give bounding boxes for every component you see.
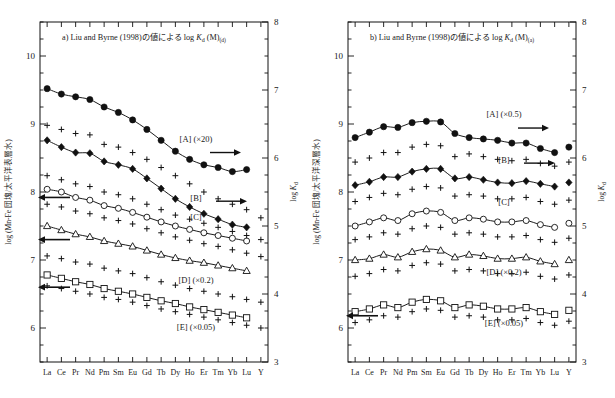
data-point-[A]-Gd <box>144 126 150 132</box>
data-point-[B]-Pr <box>72 149 78 156</box>
panel-b: 678910345678LaCePrNdPmSmEuGdTbDyHoErTmYb… <box>308 0 615 398</box>
data-point-plus-D-La <box>44 253 50 259</box>
series-label-[B]: [B] <box>498 155 510 165</box>
y-right-axis: 345678 <box>262 17 279 367</box>
data-point-plus-A-Tb <box>466 151 472 157</box>
data-point-[C]-Gd <box>452 218 458 224</box>
series-label-[E]: [E] (×0.05) <box>485 318 523 328</box>
data-point-[B]-Nd <box>395 173 401 180</box>
data-point-plus-D-Ce <box>366 271 372 277</box>
series-label-[C]: [C] <box>498 197 510 207</box>
data-point-plus-A-Yb <box>229 201 235 207</box>
data-point-plus-B-Pr <box>381 190 387 196</box>
x-tick-label-Er: Er <box>200 368 208 377</box>
data-point-plus-B-Eu <box>130 196 136 202</box>
data-point-[A]-Pr <box>381 124 387 130</box>
data-point-plus-B-La <box>352 199 358 205</box>
data-point-plus-A-Dy <box>172 173 178 179</box>
data-point-[A]-Gd <box>452 130 458 136</box>
data-point-plus-A-Nd <box>395 150 401 156</box>
data-point-plus-D-Sm <box>423 260 429 266</box>
y-right-tick-label: 3 <box>582 357 587 367</box>
data-point-[A]-Tb <box>466 135 472 141</box>
data-point-plus-E-Ho <box>187 312 193 318</box>
data-point-[A]-Y <box>566 144 572 150</box>
data-point-plus-C-Y <box>566 235 572 241</box>
data-point-plus-B-Y <box>258 237 264 243</box>
data-point-plus-B-Tb <box>466 192 472 198</box>
data-point-plus-C-Pr <box>73 208 79 214</box>
x-tick-label-Nd: Nd <box>393 368 403 377</box>
data-point-[B]-Tm <box>523 178 529 185</box>
data-point-[E]-Eu <box>130 291 136 297</box>
plot-frame <box>40 22 268 362</box>
data-point-[A]-Nd <box>395 124 401 130</box>
data-point-plus-A-Dy <box>480 154 486 160</box>
data-point-[C]-Ho <box>495 219 501 225</box>
data-point-plus-E-Pm <box>409 309 415 315</box>
data-point-plus-D-Tb <box>158 279 164 285</box>
data-point-plus-A-Nd <box>87 132 93 138</box>
series-layer <box>352 118 573 328</box>
data-point-[E]-Gd <box>452 305 458 311</box>
data-point-plus-E-Lu <box>552 322 558 328</box>
data-point-plus-D-Pm <box>409 263 415 269</box>
data-point-[B]-Gd <box>452 175 458 182</box>
data-point-plus-E-Dy <box>172 309 178 315</box>
data-point-[E]-Sm <box>423 296 429 302</box>
data-point-plus-E-Eu <box>130 299 136 305</box>
data-point-plus-A-Er <box>509 158 515 164</box>
y-right-tick-label: 4 <box>582 289 587 299</box>
data-point-[B]-Dy <box>480 176 486 183</box>
data-point-[C]-Yb <box>229 235 235 241</box>
data-point-[A]-Eu <box>438 119 444 125</box>
series-label-[B]: [B] <box>190 193 202 203</box>
data-point-plus-C-Sm <box>115 218 121 224</box>
y-right-axis-label: log Kd <box>289 182 299 202</box>
data-point-plus-D-Gd <box>144 275 150 281</box>
data-point-[A]-Er <box>201 162 207 168</box>
data-point-plus-B-Tb <box>158 207 164 213</box>
data-point-plus-B-Gd <box>144 201 150 207</box>
data-point-[A]-Er <box>509 140 515 146</box>
data-point-[A]-Dy <box>480 136 486 142</box>
data-point-plus-C-Ce <box>58 204 64 210</box>
data-point-[C]-Dy <box>172 223 178 229</box>
data-point-plus-C-Eu <box>130 221 136 227</box>
data-point-plus-D-Tm <box>215 291 221 297</box>
data-point-[B]-Pm <box>409 168 415 175</box>
series-label-[D]: [D] (×0.2) <box>178 275 213 285</box>
data-point-plus-D-Yb <box>229 294 235 300</box>
data-point-[E]-Tb <box>158 298 164 304</box>
data-point-[E]-Pm <box>409 299 415 305</box>
data-point-[B]-Ho <box>186 203 192 210</box>
data-point-[B]-Pr <box>380 173 386 180</box>
data-point-[E]-Pr <box>73 279 79 285</box>
x-tick-label-Y: Y <box>258 368 264 377</box>
data-point-[B]-Lu <box>243 224 249 231</box>
data-point-plus-E-La <box>352 320 358 326</box>
data-point-[A]-Lu <box>244 166 250 172</box>
data-point-[E]-Pm <box>101 285 107 291</box>
data-point-plus-A-Y <box>566 159 572 165</box>
data-point-[B]-Er <box>509 180 515 187</box>
data-point-[C]-Tm <box>523 218 529 224</box>
data-point-plus-C-Nd <box>395 231 401 237</box>
data-point-plus-E-Nd <box>87 291 93 297</box>
data-point-[C]-La <box>352 223 358 229</box>
data-point-[A]-Eu <box>130 117 136 123</box>
panel-title: a) Liu and Byrne (1998)の値による log Kd (M)(… <box>62 32 226 44</box>
data-point-plus-E-Gd <box>144 303 150 309</box>
y-left-tick-label: 6 <box>339 323 344 333</box>
series-label-[C]: [C] <box>190 212 202 222</box>
data-point-[B]-La <box>352 182 358 189</box>
data-point-plus-B-Tm <box>523 195 529 201</box>
y-left-tick-label: 8 <box>31 187 36 197</box>
data-point-plus-C-Ho <box>495 234 501 240</box>
data-point-[E]-Yb <box>537 309 543 315</box>
y-left-tick-label: 8 <box>339 187 344 197</box>
x-tick-label-Tb: Tb <box>157 368 166 377</box>
data-point-[B]-Ho <box>494 179 500 186</box>
data-point-[A]-Tb <box>158 137 164 143</box>
data-point-plus-C-La <box>44 201 50 207</box>
